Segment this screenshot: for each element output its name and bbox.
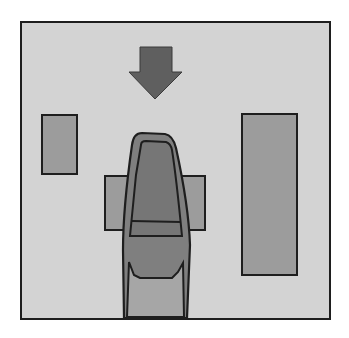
obstacle-right xyxy=(242,114,297,275)
driving-scene-diagram xyxy=(0,0,349,338)
car-windshield-divider xyxy=(132,221,181,222)
obstacle-left xyxy=(42,115,77,174)
